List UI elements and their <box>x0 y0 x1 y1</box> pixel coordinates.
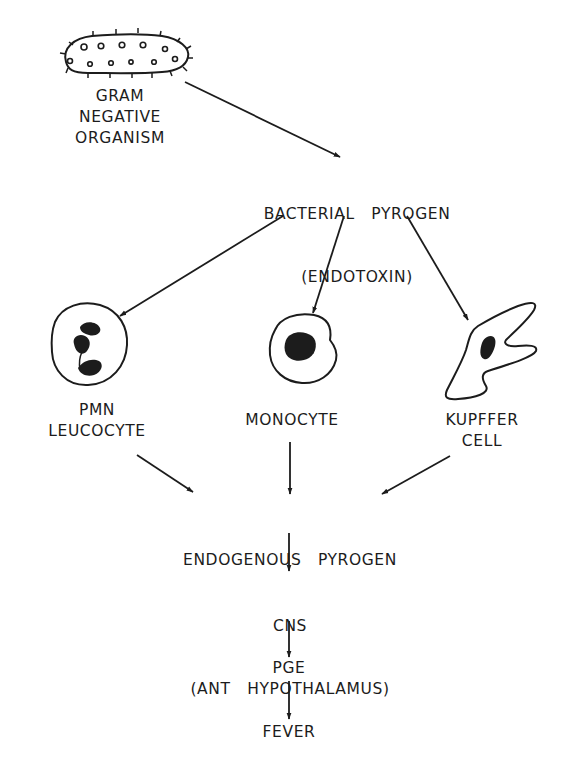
label-kupffer-cell: KUPFFER CELL <box>445 410 518 452</box>
label-line: CNS <box>190 616 389 637</box>
kupffer-cell-icon <box>446 303 536 399</box>
label-line: BACTERIAL PYROGEN <box>264 204 451 225</box>
label-line: ORGANISM <box>75 128 165 149</box>
label-line: KUPFFER <box>445 410 518 431</box>
label-line: ENDOGENOUS PYROGEN <box>183 550 397 571</box>
label-line: PGE <box>273 658 306 679</box>
label-gram-negative-organism: GRAM NEGATIVE ORGANISM <box>75 86 165 149</box>
label-line: NEGATIVE <box>75 107 165 128</box>
label-monocyte: MONOCYTE <box>245 410 338 431</box>
fever-pathway-diagram: GRAM NEGATIVE ORGANISM BACTERIAL PYROGEN… <box>0 0 565 772</box>
bacterium-icon <box>60 28 193 78</box>
label-line: CELL <box>445 431 518 452</box>
arrow-pmn-to-endogenous-pyrogen <box>137 455 193 492</box>
arrow-endotoxin-to-pmn <box>120 216 283 316</box>
label-pmn-leucocyte: PMN LEUCOCYTE <box>48 400 145 442</box>
label-fever: FEVER <box>263 722 316 743</box>
label-line: FEVER <box>263 722 316 743</box>
arrow-organism-to-bacterial-pyrogen <box>185 82 340 157</box>
label-line: LEUCOCYTE <box>48 421 145 442</box>
label-line: (ENDOTOXIN) <box>264 267 451 288</box>
label-pge: PGE <box>273 658 306 679</box>
label-line: (ANT HYPOTHALAMUS) <box>190 679 389 700</box>
label-line: PMN <box>48 400 145 421</box>
label-line: MONOCYTE <box>245 410 338 431</box>
pmn-leucocyte-icon <box>52 303 127 385</box>
label-bacterial-pyrogen: BACTERIAL PYROGEN (ENDOTOXIN) <box>264 162 451 330</box>
arrow-kupffer-to-endogenous-pyrogen <box>382 456 450 494</box>
label-line: GRAM <box>75 86 165 107</box>
